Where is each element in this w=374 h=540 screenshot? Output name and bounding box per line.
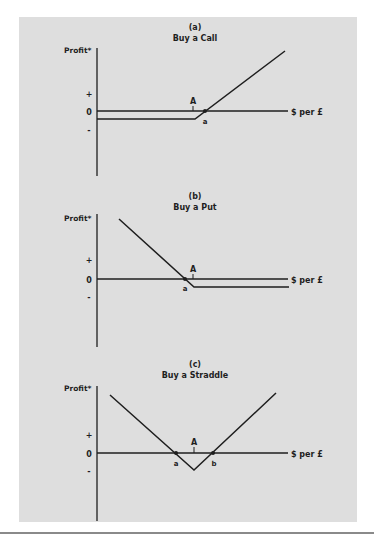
chart-b-x-label: $ per £ xyxy=(291,276,323,285)
chart-b-tick-zero: 0 xyxy=(86,276,92,285)
chart-c-y-label: Profit* xyxy=(64,384,91,393)
chart-b-y-label: Profit* xyxy=(64,214,91,223)
chart-c-x-label: $ per £ xyxy=(291,450,323,459)
chart-a-y-label: Profit* xyxy=(64,46,91,55)
chart-a-label: (a) xyxy=(189,23,202,32)
chart-b-title: Buy a Put xyxy=(173,203,217,212)
chart-a-strike-label: A xyxy=(190,97,197,106)
chart-b-strike-label: A xyxy=(190,265,197,274)
chart-a: (a) Buy a Call Profit* + 0 - $ per £ A a xyxy=(64,23,323,176)
chart-c-label: (c) xyxy=(189,360,201,369)
chart-c-tick-plus: + xyxy=(86,431,93,440)
chart-c-breakeven-label-b: b xyxy=(211,460,216,468)
chart-a-x-label: $ per £ xyxy=(291,108,323,117)
chart-c: (c) Buy a Straddle Profit* + 0 - $ per £… xyxy=(64,360,323,521)
chart-c-strike-label: A xyxy=(191,438,198,447)
chart-c-breakeven-label-a: a xyxy=(174,460,179,468)
chart-a-tick-zero: 0 xyxy=(86,108,92,117)
chart-c-payoff-line xyxy=(110,393,276,470)
chart-c-tick-minus: - xyxy=(87,467,90,476)
chart-b: (b) Buy a Put Profit* + 0 - $ per £ A a xyxy=(64,192,323,347)
chart-b-label: (b) xyxy=(188,192,201,201)
chart-a-tick-minus: - xyxy=(87,126,90,135)
figure-svg: (a) Buy a Call Profit* + 0 - $ per £ A a… xyxy=(0,0,374,540)
chart-a-payoff-line xyxy=(97,51,285,119)
chart-b-breakeven-label: a xyxy=(183,285,188,293)
chart-b-tick-minus: - xyxy=(87,293,90,302)
chart-c-tick-zero: 0 xyxy=(86,450,92,459)
chart-b-breakeven-dot xyxy=(183,277,187,281)
chart-a-breakeven-label: a xyxy=(203,118,208,126)
chart-a-breakeven-dot xyxy=(203,109,207,113)
chart-a-title: Buy a Call xyxy=(173,34,218,43)
chart-c-breakeven-dot-a xyxy=(174,451,178,455)
chart-b-payoff-line xyxy=(119,219,289,287)
chart-a-tick-plus: + xyxy=(86,90,93,99)
chart-c-title: Buy a Straddle xyxy=(162,371,229,380)
chart-c-breakeven-dot-b xyxy=(211,451,215,455)
chart-b-tick-plus: + xyxy=(86,256,93,265)
